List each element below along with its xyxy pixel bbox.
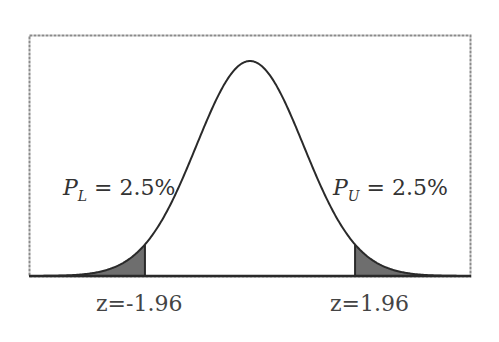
- z-upper-label: z=1.96: [330, 291, 409, 316]
- upper-tail-label: PU = 2.5%: [333, 175, 448, 204]
- p-value: = 2.5%: [360, 175, 448, 200]
- z-lower-label: z=-1.96: [96, 291, 182, 316]
- p-value: = 2.5%: [87, 175, 175, 200]
- p-subscript: L: [78, 188, 87, 204]
- lower-tail-label: PL = 2.5%: [63, 175, 175, 204]
- p-symbol: P: [63, 175, 78, 200]
- p-subscript: U: [348, 188, 360, 204]
- frame-box: [30, 36, 471, 277]
- normal-curve-diagram: [0, 0, 499, 342]
- p-symbol: P: [333, 175, 348, 200]
- bell-curve: [29, 61, 471, 276]
